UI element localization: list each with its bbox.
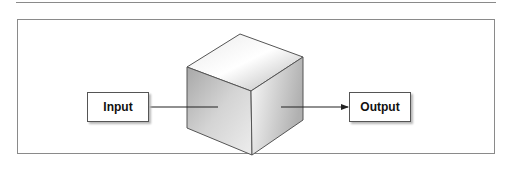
output-label: Output xyxy=(360,100,399,114)
black-box-diagram xyxy=(0,0,507,182)
input-label: Input xyxy=(103,100,132,114)
input-node: Input xyxy=(87,92,149,122)
cube-icon xyxy=(187,34,303,155)
output-node: Output xyxy=(349,92,411,122)
